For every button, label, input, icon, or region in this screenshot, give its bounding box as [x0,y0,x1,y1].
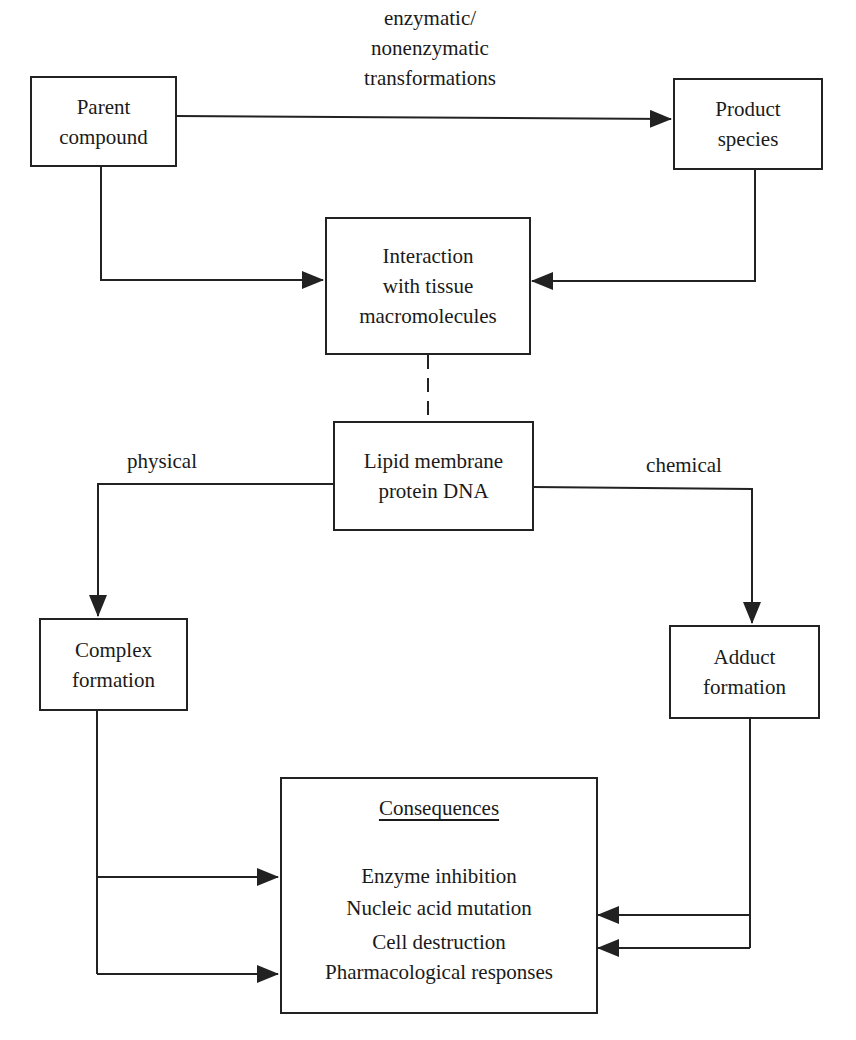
consequence-item: Nucleic acid mutation [346,893,531,923]
arrow-lipid-to-adduct [533,487,752,623]
node-lipid-protein-dna: Lipid membrane protein DNA [333,421,534,531]
edge-label-transformations: enzymatic/ nonenzymatic transformations [330,3,530,93]
node-consequences: Consequences Enzyme inhibition Nucleic a… [280,777,598,1014]
consequence-item: Cell destruction [372,927,506,957]
flow-diagram: enzymatic/ nonenzymatic transformations … [0,0,856,1040]
edge-label-chemical: chemical [634,450,734,480]
arrow-lipid-to-complex [98,484,333,616]
consequence-item: Enzyme inhibition [361,861,517,891]
arrow-parent-to-interaction [101,166,323,280]
node-parent-compound: Parent compound [30,76,177,167]
consequences-title: Consequences [379,793,499,823]
edge-label-physical: physical [112,446,212,476]
arrow-parent-to-product [176,116,671,119]
node-interaction: Interaction with tissue macromolecules [325,217,531,355]
arrow-product-to-interaction [532,168,755,281]
consequence-item: Pharmacological responses [325,957,553,987]
node-complex-formation: Complex formation [39,618,188,711]
node-adduct-formation: Adduct formation [669,625,820,719]
node-product-species: Product species [673,78,823,170]
